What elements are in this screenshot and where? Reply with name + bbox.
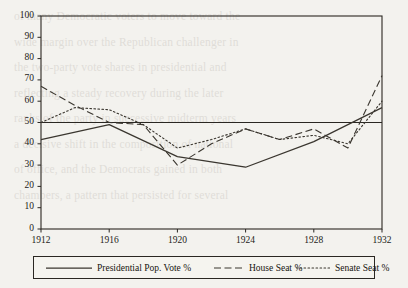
legend-entry-1: House Seat % — [214, 257, 302, 278]
y-axis-tick-label: 90 — [2, 31, 34, 41]
legend-label: Senate Seat % — [335, 263, 389, 273]
y-axis-tick-label: 100 — [2, 10, 34, 20]
series-line-2 — [41, 101, 382, 148]
series-line-1 — [41, 76, 382, 165]
legend-entry-2: Senate Seat % — [296, 257, 389, 278]
x-axis-tick-label: 1924 — [226, 235, 266, 245]
y-axis-tick-label: 30 — [2, 159, 34, 169]
legend-entry-0: Presidential Pop. Vote % — [46, 257, 191, 278]
chart-legend: Presidential Pop. Vote %House Seat %Sena… — [33, 256, 375, 279]
y-axis-tick-label: 70 — [2, 73, 34, 83]
y-axis-tick-label: 50 — [2, 116, 34, 126]
legend-swatch-dashed — [214, 264, 244, 272]
x-axis-tick-label: 1932 — [362, 235, 402, 245]
x-axis-tick-label: 1916 — [89, 235, 129, 245]
legend-swatch-dotted — [296, 264, 330, 272]
y-axis-tick-label: 80 — [2, 52, 34, 62]
line-chart — [0, 0, 408, 288]
series-line-0 — [41, 108, 382, 168]
y-axis-tick-label: 10 — [2, 201, 34, 211]
x-axis-tick-label: 1920 — [157, 235, 197, 245]
x-axis-tick-label: 1912 — [21, 235, 61, 245]
y-axis-tick-label: 40 — [2, 137, 34, 147]
y-axis-tick-label: 20 — [2, 180, 34, 190]
x-axis-tick-label: 1928 — [294, 235, 334, 245]
chart-figure: 0102030405060708090100 19121916192019241… — [0, 0, 408, 288]
y-axis-tick-label: 0 — [2, 223, 34, 233]
legend-label: Presidential Pop. Vote % — [97, 263, 191, 273]
legend-label: House Seat % — [249, 263, 302, 273]
y-axis-tick-label: 60 — [2, 95, 34, 105]
legend-swatch-solid — [46, 264, 92, 272]
